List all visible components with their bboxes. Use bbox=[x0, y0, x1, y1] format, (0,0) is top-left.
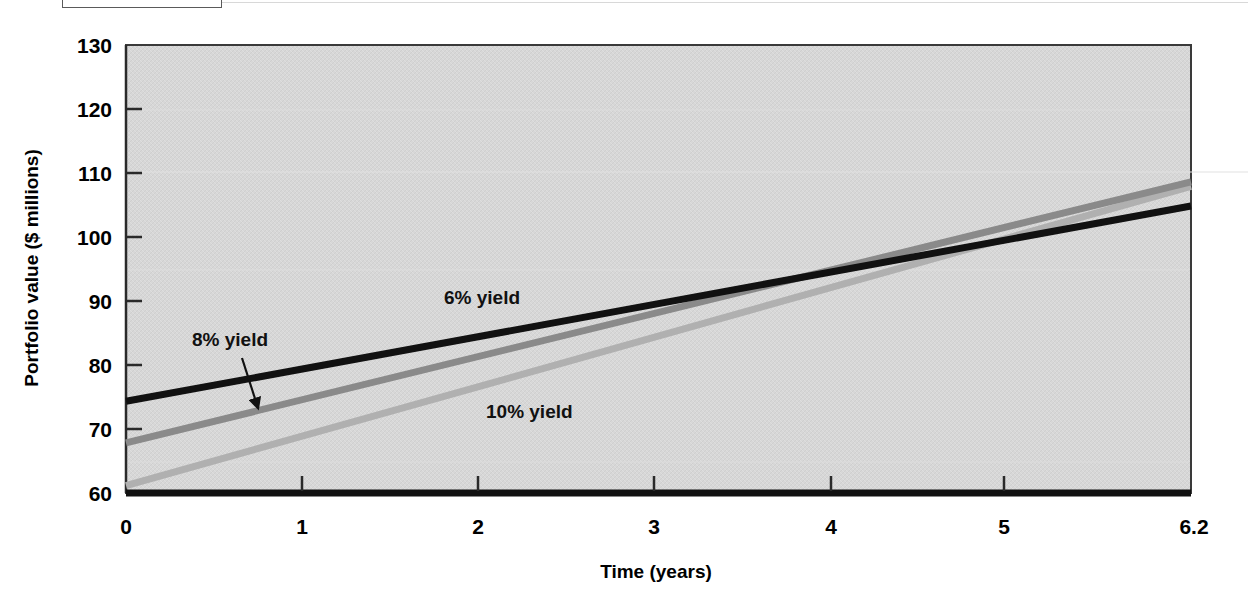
x-tick-label-0: 0 bbox=[120, 515, 132, 538]
y-tick-label-120: 120 bbox=[77, 98, 112, 121]
x-tick-label-4: 4 bbox=[825, 515, 837, 538]
y-tick-label-130: 130 bbox=[77, 34, 112, 57]
y-tick-label-110: 110 bbox=[78, 162, 112, 185]
x-axis-title: Time (years) bbox=[600, 561, 712, 582]
y-tick-label-100: 100 bbox=[77, 226, 112, 249]
x-tick-label-1: 1 bbox=[296, 515, 308, 538]
plot-area-background bbox=[126, 45, 1191, 493]
series-label-6-percent: 6% yield bbox=[444, 287, 520, 308]
series-label-10-percent: 10% yield bbox=[486, 401, 573, 422]
y-tick-label-80: 80 bbox=[89, 354, 112, 377]
y-tick-label-90: 90 bbox=[89, 290, 112, 313]
x-tick-label-5: 5 bbox=[998, 515, 1010, 538]
y-tick-label-70: 70 bbox=[89, 418, 112, 441]
y-tick-label-60: 60 bbox=[89, 482, 112, 505]
line-chart: 130 120 110 100 90 80 70 60 Portfolio va… bbox=[0, 0, 1248, 605]
figure-canvas: 130 120 110 100 90 80 70 60 Portfolio va… bbox=[0, 0, 1248, 605]
x-tick-label-2: 2 bbox=[472, 515, 484, 538]
series-label-8-percent: 8% yield bbox=[192, 329, 268, 350]
x-tick-label-3: 3 bbox=[648, 515, 660, 538]
y-axis-title: Portfolio value ($ millions) bbox=[21, 149, 42, 387]
x-tick-label-6-2: 6.2 bbox=[1179, 515, 1208, 538]
